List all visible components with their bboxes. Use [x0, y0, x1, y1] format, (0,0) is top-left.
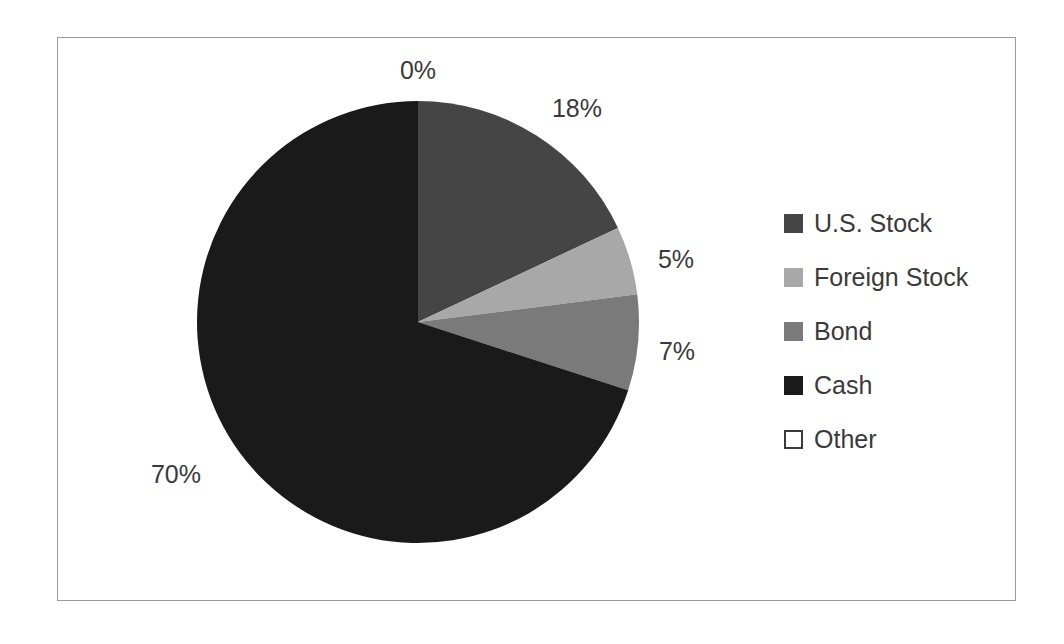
legend-swatch-foreign-stock — [784, 268, 803, 287]
legend-label-us-stock: U.S. Stock — [814, 211, 932, 236]
legend-label-foreign-stock: Foreign Stock — [814, 265, 968, 290]
pie-chart-figure: 0% 18% 5% 7% 70% U.S. Stock Foreign Stoc… — [0, 0, 1064, 644]
legend-item-us-stock[interactable]: U.S. Stock — [784, 196, 999, 250]
chart-legend: U.S. Stock Foreign Stock Bond Cash Other — [784, 196, 999, 466]
legend-label-cash: Cash — [814, 373, 872, 398]
legend-item-other[interactable]: Other — [784, 412, 999, 466]
legend-item-cash[interactable]: Cash — [784, 358, 999, 412]
legend-swatch-us-stock — [784, 214, 803, 233]
legend-label-bond: Bond — [814, 319, 872, 344]
legend-item-foreign-stock[interactable]: Foreign Stock — [784, 250, 999, 304]
legend-item-bond[interactable]: Bond — [784, 304, 999, 358]
legend-label-other: Other — [814, 427, 877, 452]
legend-swatch-other — [784, 430, 803, 449]
pie-slices-group — [197, 101, 639, 543]
legend-swatch-cash — [784, 376, 803, 395]
legend-swatch-bond — [784, 322, 803, 341]
